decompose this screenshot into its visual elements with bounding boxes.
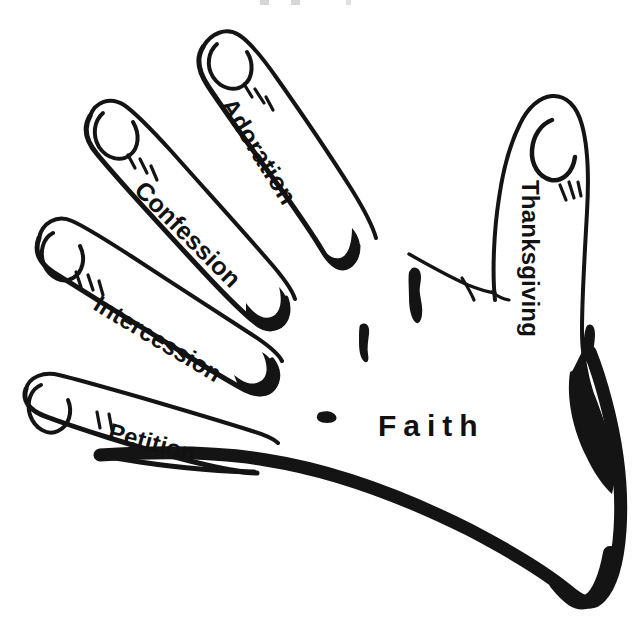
figure-canvas: Adoration Confession Intercession Petiti… [0, 0, 639, 631]
middle-finger-base-shadow [246, 287, 289, 331]
index-finger-outline [203, 31, 376, 238]
thumbnail-arc [532, 120, 575, 180]
finger-label-thanksgiving: Thanksgiving [518, 180, 542, 337]
palm-label-faith: Faith [378, 411, 485, 441]
middle-knuckle-marks [128, 155, 157, 180]
palm-mark-middle [359, 324, 369, 363]
middle-finger-outline [90, 101, 295, 299]
middle-fingernail [95, 113, 138, 159]
ring-finger-outline-lower [37, 238, 278, 394]
index-knuckle-marks [244, 84, 273, 110]
thumb-knuckle-marks [560, 182, 581, 200]
palm-mark-upper [409, 267, 423, 323]
index-fingernail [209, 44, 252, 89]
hand-lower-contour [100, 352, 621, 602]
palm-mark-lower [317, 411, 337, 423]
thumb-web-crease [409, 254, 495, 293]
thumb-web-fork [462, 278, 474, 300]
